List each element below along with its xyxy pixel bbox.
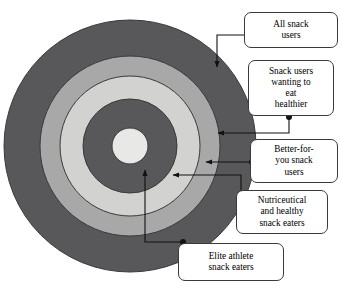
label-elite-athlete-snack-eaters[interactable]: Elite athlete snack eaters [178,243,284,281]
label-nutriceutical-and-healthy-snack-eaters[interactable]: Nutriceutical and healthy snack eaters [236,190,328,234]
label-all-snack-users[interactable]: All snack users [244,12,338,48]
label-better-for-you-snack-users[interactable]: Better-for- you snack users [250,139,338,183]
label-snack-users-wanting-to-eat-healthier[interactable]: Snack users wanting to eat healthier [248,60,334,116]
ring-elite-athlete-snack-eaters [112,128,148,164]
diagram-canvas: All snack users Snack users wanting to e… [0,0,342,291]
